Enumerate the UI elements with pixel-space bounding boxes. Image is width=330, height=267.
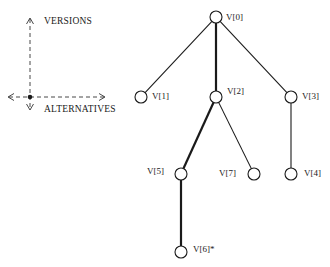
node-label: V[3]	[302, 91, 319, 101]
node-circle[interactable]	[210, 11, 222, 23]
node-label: V[1]	[152, 91, 169, 101]
node-circle[interactable]	[175, 168, 187, 180]
node-label: V[0]	[226, 12, 243, 22]
version-tree-diagram: VERSIONS ALTERNATIVES V[0]V[1]V[2]V[3]V[…	[0, 0, 330, 267]
edge-v0-v1	[145, 21, 212, 92]
axis-legend	[8, 18, 105, 110]
node-circle[interactable]	[248, 168, 260, 180]
tree-node-v7[interactable]: V[7]	[219, 168, 260, 180]
node-label: V[4]	[304, 168, 321, 178]
node-circle[interactable]	[285, 168, 297, 180]
node-label: V[6]*	[193, 244, 215, 254]
edge-v2-v7	[219, 102, 252, 168]
origin-dot	[28, 95, 33, 100]
node-label: V[2]	[227, 86, 244, 96]
tree-edges	[145, 21, 291, 246]
node-label: V[5]	[147, 166, 164, 176]
node-label: V[7]	[219, 168, 236, 178]
tree-nodes: V[0]V[1]V[2]V[3]V[5]V[7]V[4]V[6]*	[135, 11, 321, 258]
tree-node-v1[interactable]: V[1]	[135, 91, 169, 103]
tree-node-v3[interactable]: V[3]	[285, 91, 319, 103]
node-circle[interactable]	[175, 246, 187, 258]
tree-node-v5[interactable]: V[5]	[147, 166, 187, 180]
versions-axis-label: VERSIONS	[44, 16, 92, 26]
edge-v2-v5	[183, 102, 213, 168]
tree-node-v6[interactable]: V[6]*	[175, 244, 215, 258]
alternatives-axis-label: ALTERNATIVES	[44, 104, 116, 114]
node-circle[interactable]	[285, 91, 297, 103]
edge-v0-v3	[220, 21, 287, 92]
node-circle[interactable]	[210, 91, 222, 103]
node-circle[interactable]	[135, 91, 147, 103]
tree-node-v0[interactable]: V[0]	[210, 11, 243, 23]
tree-node-v4[interactable]: V[4]	[285, 168, 321, 180]
